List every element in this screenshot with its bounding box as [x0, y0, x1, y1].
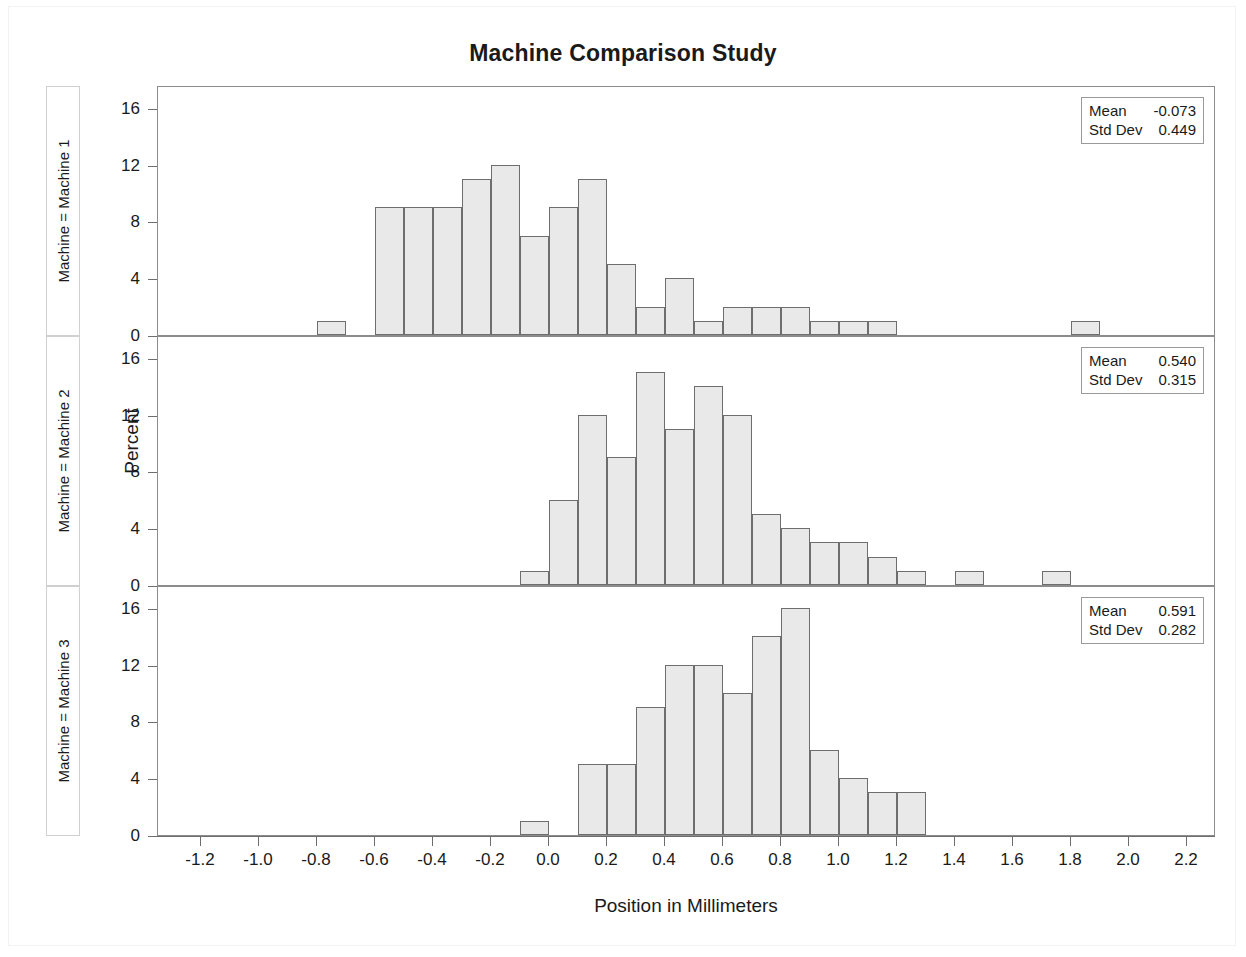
- panel-machine-2: Mean 0.540 Std Dev 0.315: [157, 336, 1215, 586]
- histogram-bar: [433, 207, 462, 335]
- x-axis-tick: [838, 837, 839, 846]
- y-axis-tick-label: 4: [100, 769, 140, 789]
- histogram-bar: [665, 429, 694, 585]
- chart-title: Machine Comparison Study: [0, 40, 1246, 67]
- y-axis-tick-label: 16: [100, 349, 140, 369]
- y-axis-tick: [148, 472, 157, 473]
- row-header-label: Machine = Machine 2: [55, 390, 72, 533]
- histogram-bar: [636, 707, 665, 835]
- x-axis-tick: [664, 837, 665, 846]
- panel-machine-3: Mean 0.591 Std Dev 0.282: [157, 586, 1215, 836]
- histogram-bar: [897, 571, 926, 585]
- histogram-bar: [607, 457, 636, 585]
- histogram-bar: [897, 792, 926, 835]
- y-axis-tick-label: 8: [100, 212, 140, 232]
- y-axis-title: Percent: [121, 371, 143, 511]
- y-axis-tick-label: 0: [100, 826, 140, 846]
- y-axis-tick-label: 4: [100, 519, 140, 539]
- y-axis-tick-label: 12: [100, 156, 140, 176]
- x-axis-tick-label: 1.6: [982, 850, 1042, 870]
- x-axis-tick: [432, 837, 433, 846]
- histogram-bar: [810, 750, 839, 835]
- x-axis-tick: [780, 837, 781, 846]
- histogram-bar: [781, 307, 810, 335]
- y-axis-tick: [148, 586, 157, 587]
- histogram-bar: [491, 165, 520, 335]
- panel-machine-1: Mean -0.073 Std Dev 0.449: [157, 86, 1215, 336]
- histogram-bar: [955, 571, 984, 585]
- histogram-bars: [158, 87, 1214, 335]
- y-axis-tick: [148, 109, 157, 110]
- histogram-bar: [781, 608, 810, 835]
- x-axis-tick-label: 2.0: [1098, 850, 1158, 870]
- row-header-machine-1: Machine = Machine 1: [46, 86, 80, 336]
- stat-mean: Mean 0.540: [1089, 351, 1196, 370]
- stat-std-dev: Std Dev 0.315: [1089, 370, 1196, 389]
- stat-std-dev-value: 0.282: [1158, 620, 1196, 639]
- y-axis-tick-label: 4: [100, 269, 140, 289]
- row-header-machine-3: Machine = Machine 3: [46, 586, 80, 836]
- x-axis-tick: [1128, 837, 1129, 846]
- y-axis-tick-label: 16: [100, 599, 140, 619]
- histogram-bar: [868, 321, 897, 335]
- histogram-bars: [158, 587, 1214, 835]
- histogram-bar: [694, 386, 723, 585]
- histogram-bar: [810, 321, 839, 335]
- x-axis-tick-label: -0.2: [460, 850, 520, 870]
- x-axis-tick: [316, 837, 317, 846]
- y-axis-tick: [148, 779, 157, 780]
- histogram-bar: [839, 778, 868, 835]
- histogram-bar: [839, 321, 868, 335]
- y-axis-tick: [148, 666, 157, 667]
- stat-std-dev-label: Std Dev: [1089, 620, 1158, 639]
- histogram-bar: [404, 207, 433, 335]
- histogram-bar: [375, 207, 404, 335]
- x-axis-tick: [258, 837, 259, 846]
- histogram-bar: [752, 307, 781, 335]
- x-axis-tick-label: -0.8: [286, 850, 346, 870]
- row-header-machine-2: Machine = Machine 2: [46, 336, 80, 586]
- row-header-label: Machine = Machine 3: [55, 640, 72, 783]
- x-axis-tick: [548, 837, 549, 846]
- histogram-bar: [868, 792, 897, 835]
- y-axis-tick: [148, 722, 157, 723]
- histogram-bar: [520, 821, 549, 835]
- stat-std-dev: Std Dev 0.449: [1089, 120, 1196, 139]
- x-axis-title: Position in Millimeters: [157, 895, 1215, 917]
- y-axis-tick: [148, 222, 157, 223]
- histogram-bar: [1042, 571, 1071, 585]
- histogram-bar: [665, 278, 694, 335]
- stat-std-dev-label: Std Dev: [1089, 120, 1158, 139]
- y-axis-tick: [148, 166, 157, 167]
- y-axis-tick-label: 12: [100, 656, 140, 676]
- histogram-bar: [317, 321, 346, 335]
- histogram-bar: [694, 321, 723, 335]
- stat-mean-value: 0.591: [1158, 601, 1196, 620]
- stat-mean: Mean 0.591: [1089, 601, 1196, 620]
- histogram-bar: [636, 372, 665, 585]
- histogram-bar: [607, 264, 636, 335]
- histogram-bar: [578, 415, 607, 585]
- histogram-bar: [578, 179, 607, 335]
- y-axis-tick: [148, 529, 157, 530]
- x-axis-tick: [200, 837, 201, 846]
- x-axis-tick-label: 0.6: [692, 850, 752, 870]
- histogram-bar: [723, 307, 752, 335]
- x-axis-tick-label: 0.0: [518, 850, 578, 870]
- y-axis-tick: [148, 336, 157, 337]
- x-axis-tick: [954, 837, 955, 846]
- histogram-bar: [781, 528, 810, 585]
- x-axis-tick-label: -1.0: [228, 850, 288, 870]
- y-axis-tick-label: 8: [100, 462, 140, 482]
- stat-std-dev-label: Std Dev: [1089, 370, 1158, 389]
- stat-mean-value: 0.540: [1158, 351, 1196, 370]
- stat-std-dev: Std Dev 0.282: [1089, 620, 1196, 639]
- y-axis-tick-label: 16: [100, 99, 140, 119]
- histogram-bar: [1071, 321, 1100, 335]
- y-axis-tick-label: 8: [100, 712, 140, 732]
- x-axis-tick-label: 0.2: [576, 850, 636, 870]
- y-axis-tick-label: 12: [100, 406, 140, 426]
- chart-root: Machine Comparison Study Percent Machine…: [0, 0, 1246, 957]
- x-axis-tick-label: -0.4: [402, 850, 462, 870]
- histogram-bar: [549, 207, 578, 335]
